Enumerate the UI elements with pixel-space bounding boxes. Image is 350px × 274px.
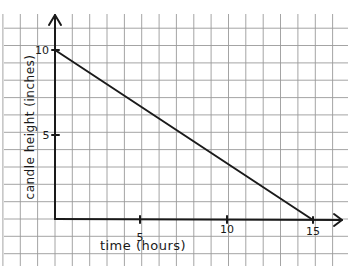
candle-height-chart: 5 10 15 5 10 time (hours) candle height …: [0, 0, 350, 274]
x-axis: [55, 219, 342, 220]
x-tick-label-10: 10: [220, 223, 234, 236]
candle-height-line: [55, 50, 313, 220]
x-axis-label: time (hours): [100, 238, 186, 253]
y-tick-label-5: 5: [43, 129, 50, 142]
y-tick-label-10: 10: [35, 44, 49, 57]
x-tick-label-15: 15: [306, 225, 320, 238]
y-axis-label: candle height (inches): [23, 55, 37, 200]
